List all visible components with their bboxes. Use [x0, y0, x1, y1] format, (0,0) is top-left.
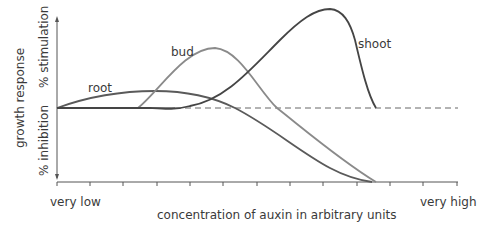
root-label: root: [88, 81, 112, 95]
root-curve: [57, 91, 372, 182]
x-low-label: very low: [50, 195, 101, 209]
shoot-label: shoot: [358, 37, 392, 51]
y-axis-label: growth response: [13, 48, 27, 148]
x-axis-label: concentration of auxin in arbitrary unit…: [157, 208, 396, 222]
x-axis: [57, 182, 458, 186]
auxin-response-chart: root bud shoot % stimulation % inhibitio…: [0, 0, 482, 234]
arrow-down-icon: [55, 174, 59, 180]
x-high-label: very high: [420, 195, 477, 209]
y-axis: [55, 16, 59, 180]
bud-label: bud: [171, 45, 194, 59]
y-upper-label: % stimulation: [37, 6, 51, 88]
y-lower-label: % inhibition: [37, 105, 51, 176]
bud-curve: [57, 48, 376, 182]
arrow-up-icon: [55, 16, 59, 22]
